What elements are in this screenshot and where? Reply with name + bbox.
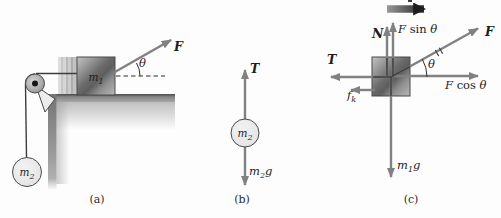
blur-streak xyxy=(63,57,66,95)
F-sin-theta-label: F sin θ xyxy=(398,24,437,36)
blur-streak xyxy=(66,57,68,95)
theta-label-a: θ xyxy=(139,58,146,70)
force-F-label-fbd: F xyxy=(485,26,494,39)
theta-label-c: θ xyxy=(428,59,435,71)
table-left-edge xyxy=(48,94,57,190)
force-F-label: F xyxy=(174,41,183,54)
block-m1-label: m1 xyxy=(88,72,103,83)
theta-angle-arc-fbd xyxy=(422,59,427,77)
cropped-label-mark xyxy=(408,0,412,2)
friction-fk-label: fk xyxy=(347,90,356,102)
normal-N-label: N xyxy=(372,28,383,41)
mass-m2-label-b: m2 xyxy=(237,128,252,139)
blur-streak xyxy=(58,57,61,95)
blur-streak xyxy=(61,57,63,95)
physics-figure: m1 F θ m2 (a) T m2 m2g (b) N F sin θ F θ… xyxy=(0,0,501,218)
caption-b: (b) xyxy=(234,194,250,205)
mass-m2-label-a: m2 xyxy=(19,167,34,178)
caption-c: (c) xyxy=(404,194,419,205)
table-left-shading xyxy=(57,102,70,184)
motion-blur-streaks xyxy=(58,57,77,95)
pulley-axle xyxy=(32,81,38,87)
caption-a: (a) xyxy=(89,194,104,205)
tension-T-label-c: T xyxy=(327,54,336,67)
F-cos-theta-label: F cos θ xyxy=(445,80,487,92)
blur-streak xyxy=(68,57,71,95)
blur-streak xyxy=(73,57,77,95)
panel-a-setup xyxy=(13,40,176,190)
table-top-shading xyxy=(56,102,175,130)
blur-streak xyxy=(71,57,73,95)
tension-T-label-b: T xyxy=(250,63,259,76)
string-vertical xyxy=(26,84,27,158)
weight-m1g-label: m1g xyxy=(397,160,420,172)
weight-m2g-label: m2g xyxy=(249,166,272,178)
